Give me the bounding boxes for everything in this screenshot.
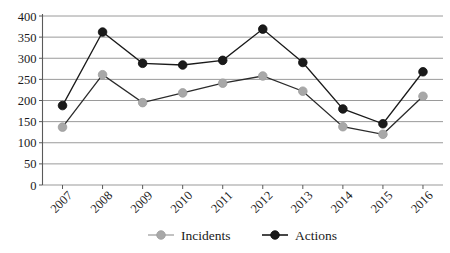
data-point-incidents-2014[interactable]	[339, 122, 348, 131]
data-point-actions-2010[interactable]	[178, 61, 187, 70]
x-tick-label: 2016	[408, 188, 436, 216]
legend-label-incidents[interactable]: Incidents	[181, 228, 231, 243]
x-tick-label: 2013	[288, 188, 316, 216]
x-tick-label: 2007	[48, 188, 76, 216]
legend-label-actions[interactable]: Actions	[295, 228, 337, 243]
y-tick-label: 350	[18, 31, 37, 45]
data-point-incidents-2009[interactable]	[138, 98, 147, 107]
chart-canvas: 050100150200250300350400 200720082009201…	[0, 0, 450, 253]
data-point-incidents-2016[interactable]	[419, 92, 428, 101]
y-tick-label: 50	[24, 157, 37, 171]
y-tick-label: 150	[18, 115, 37, 129]
data-point-incidents-2012[interactable]	[258, 72, 267, 81]
data-point-actions-2013[interactable]	[299, 58, 308, 67]
x-tick-label: 2008	[88, 188, 116, 216]
gridlines	[43, 16, 444, 185]
chart-legend: IncidentsActions	[148, 228, 337, 243]
data-point-incidents-2010[interactable]	[178, 89, 187, 98]
x-tick-label: 2009	[128, 188, 156, 216]
data-point-actions-2014[interactable]	[339, 105, 348, 114]
data-point-actions-2016[interactable]	[419, 67, 428, 76]
data-point-actions-2012[interactable]	[258, 25, 267, 34]
y-tick-label: 300	[18, 52, 37, 66]
y-tick-label: 200	[18, 94, 37, 108]
data-point-actions-2007[interactable]	[58, 101, 67, 110]
data-point-actions-2011[interactable]	[218, 56, 227, 65]
y-axis-ticks: 050100150200250300350400	[18, 10, 43, 193]
legend-marker-incidents	[157, 231, 166, 240]
line-chart: 050100150200250300350400 200720082009201…	[0, 0, 450, 253]
data-point-incidents-2007[interactable]	[58, 123, 67, 132]
data-point-actions-2015[interactable]	[379, 119, 388, 128]
y-tick-label: 400	[18, 10, 37, 24]
x-tick-label: 2015	[368, 188, 396, 216]
x-tick-label: 2012	[248, 188, 276, 216]
data-point-incidents-2015[interactable]	[379, 130, 388, 139]
y-tick-label: 0	[30, 179, 36, 193]
data-point-incidents-2013[interactable]	[299, 87, 308, 96]
series-line-actions	[63, 29, 423, 124]
legend-marker-actions	[271, 231, 280, 240]
series-line-incidents	[63, 75, 423, 135]
data-point-actions-2009[interactable]	[138, 59, 147, 68]
x-tick-label: 2011	[208, 188, 235, 215]
x-tick-label: 2014	[328, 188, 356, 216]
data-point-incidents-2011[interactable]	[218, 79, 227, 88]
x-axis-ticks: 2007200820092010201120122013201420152016	[48, 185, 436, 216]
x-tick-label: 2010	[168, 188, 196, 216]
data-point-actions-2008[interactable]	[98, 28, 107, 37]
y-tick-label: 250	[18, 73, 37, 87]
data-point-incidents-2008[interactable]	[98, 70, 107, 79]
y-tick-label: 100	[18, 136, 37, 150]
